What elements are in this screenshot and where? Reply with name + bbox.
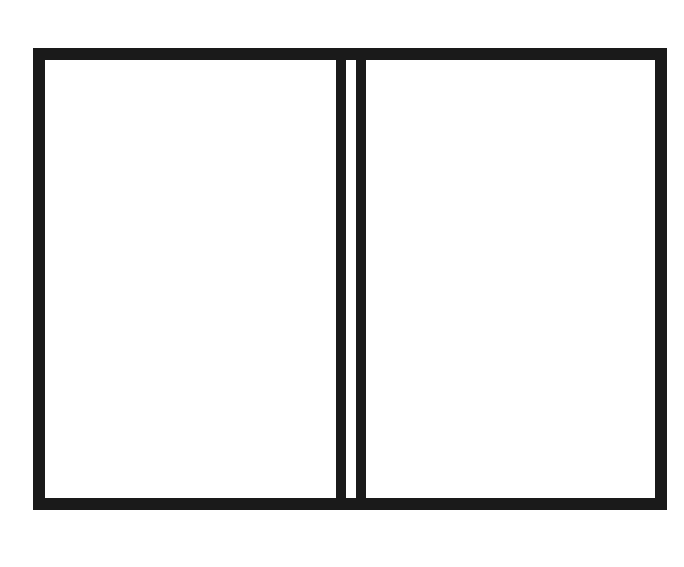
bar: [346, 60, 356, 498]
left-playing-area: [45, 60, 336, 498]
right-playing-area: [366, 60, 655, 498]
backgammon-board: [0, 0, 684, 567]
